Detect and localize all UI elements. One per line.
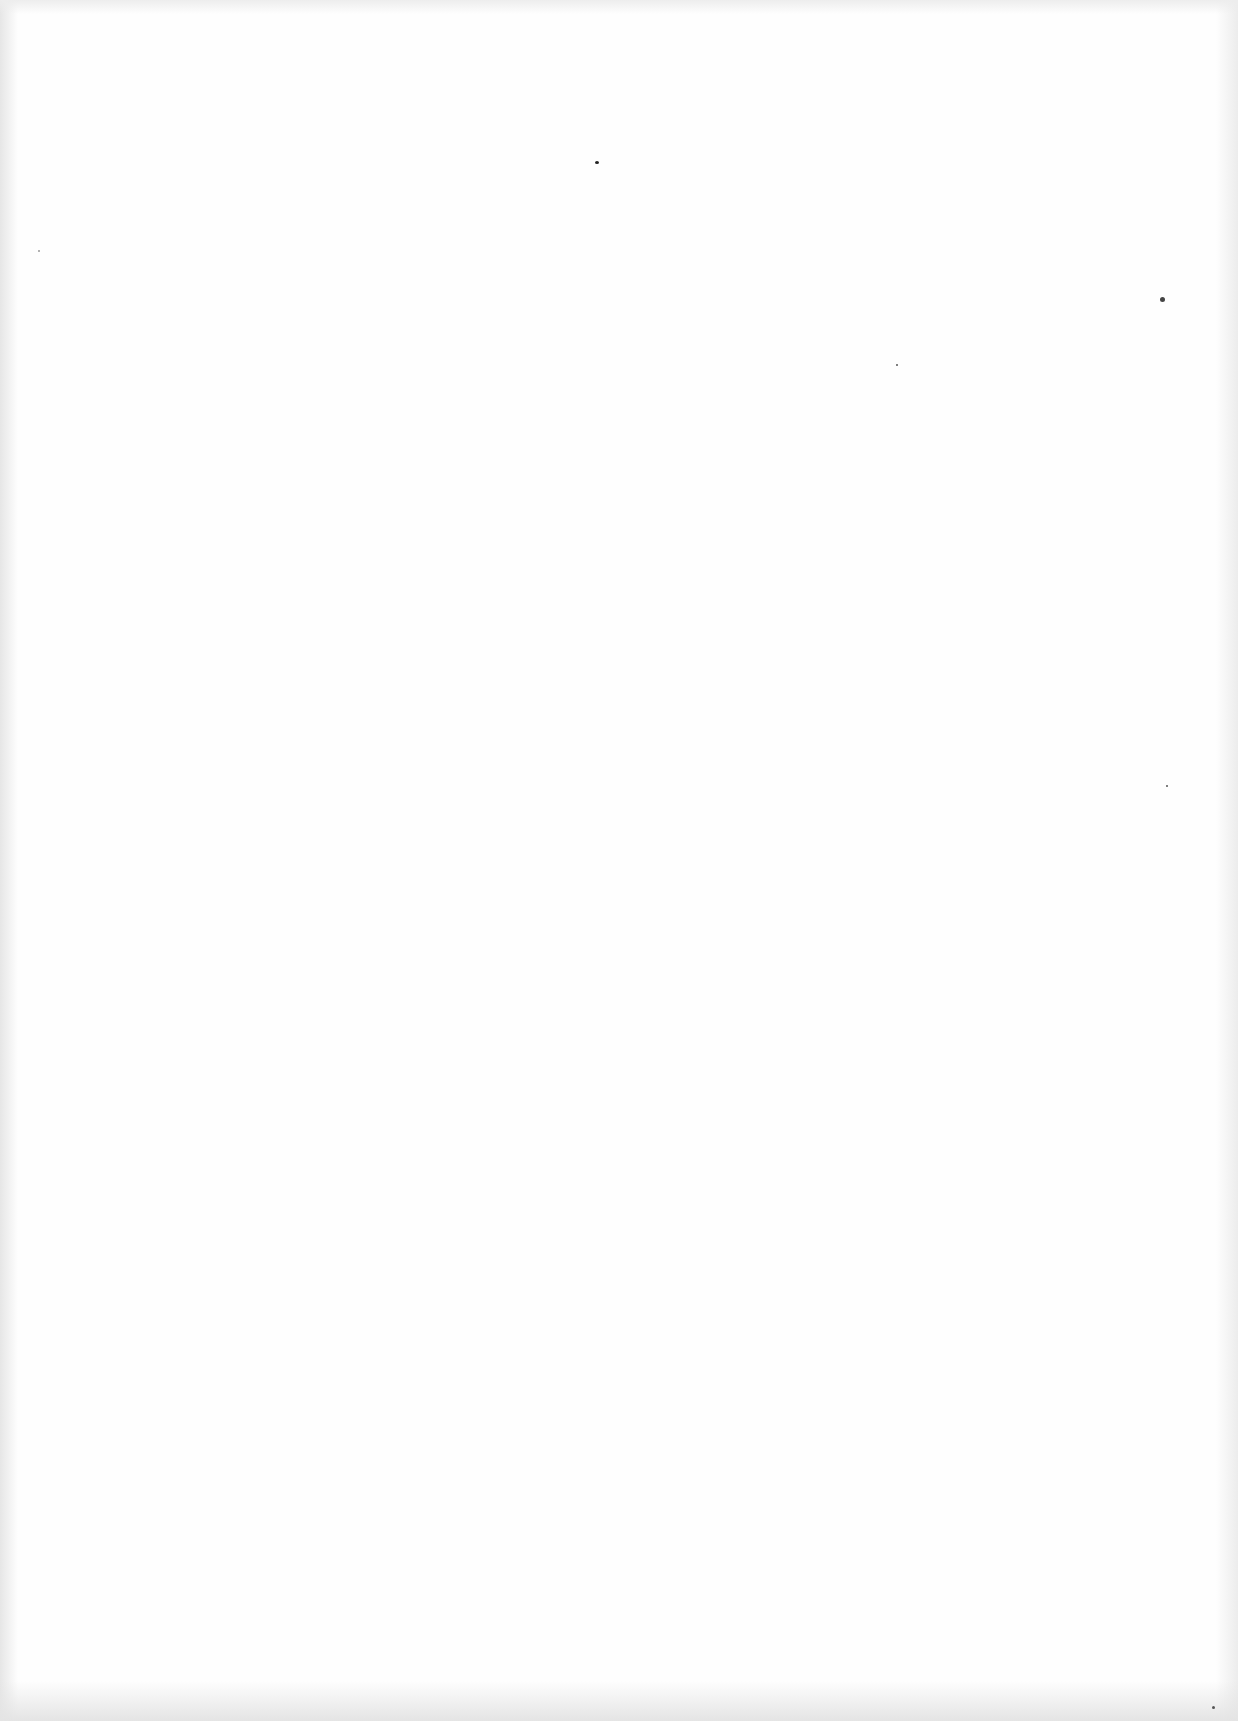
scan-edge-shadow-left (0, 0, 18, 1721)
dust-speck (1160, 297, 1165, 302)
blank-page (0, 0, 1238, 1721)
dust-speck (1212, 1706, 1215, 1709)
dust-speck (1166, 785, 1168, 787)
scan-edge-shadow-right (1216, 0, 1238, 1721)
dust-speck (38, 250, 40, 252)
dust-speck (896, 364, 898, 366)
scan-edge-shadow-bottom (0, 1681, 1238, 1721)
scan-edge-shadow-top (0, 0, 1238, 14)
dust-speck (595, 161, 599, 164)
